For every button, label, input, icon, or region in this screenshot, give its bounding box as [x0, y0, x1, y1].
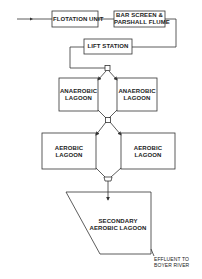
anaerobic-lagoon-right-label: ANAEROBIC LAGOON [117, 88, 157, 102]
bar-screen-label: BAR SCREEN & PARSHALL FLUME [114, 12, 165, 26]
aerobic-lagoon-right-label: AEROBIC LAGOON [121, 145, 175, 159]
label-line: ANAEROBIC [59, 88, 98, 95]
effluent-label: EFFLUENT TO BOYER RIVER [154, 256, 189, 268]
secondary-lagoon-label: SECONDARY AEROBIC LAGOON [85, 218, 151, 232]
flow-diagram [0, 0, 202, 279]
flotation-unit-label: FLOTATION UNIT [53, 16, 98, 23]
bar-screen-line2: PARSHALL FLUME [114, 19, 165, 26]
label-line: AEROBIC LAGOON [85, 225, 151, 232]
label-line: BOYER RIVER [154, 262, 189, 268]
label-line: SECONDARY [85, 218, 151, 225]
label-line: AEROBIC [121, 145, 175, 152]
lift-station-label: LIFT STATION [84, 43, 132, 50]
label-line: AEROBIC [42, 145, 96, 152]
label-line: ANAEROBIC [117, 88, 157, 95]
label-line: LAGOON [59, 95, 98, 102]
aerobic-lagoon-left-label: AEROBIC LAGOON [42, 145, 96, 159]
bar-screen-line1: BAR SCREEN & [114, 12, 165, 19]
label-line: LAGOON [117, 95, 157, 102]
label-line: LAGOON [121, 152, 175, 159]
label-line: LAGOON [42, 152, 96, 159]
anaerobic-lagoon-left-label: ANAEROBIC LAGOON [59, 88, 98, 102]
